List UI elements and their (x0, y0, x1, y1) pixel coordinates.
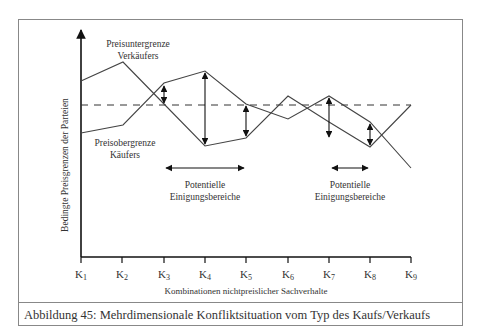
svg-text:K8: K8 (364, 268, 376, 282)
gap-arrows (164, 73, 370, 145)
svg-text:K6: K6 (282, 268, 294, 282)
x-tick-labels: K1 K2 K3 K4 K5 K6 K7 K8 K9 (75, 268, 417, 282)
figure: K1 K2 K3 K4 K5 K6 K7 K8 K9 Kombinationen… (0, 0, 480, 334)
svg-text:Einigungsbereiche: Einigungsbereiche (170, 192, 241, 202)
svg-text:K4: K4 (199, 268, 211, 282)
svg-text:Preisobergrenze: Preisobergrenze (94, 138, 155, 148)
svg-text:Potentielle: Potentielle (330, 180, 371, 190)
x-ticks (81, 257, 411, 263)
figure-caption: Abbildung 45: Mehrdimensionale Konflikts… (24, 308, 430, 322)
agreement-zone-label-1: Potentielle Einigungsbereiche (170, 180, 241, 202)
seller-label: Preisuntergrenze Verkäufers (106, 39, 170, 61)
agreement-zone-label-2: Potentielle Einigungsbereiche (315, 180, 386, 202)
svg-text:K3: K3 (158, 268, 170, 282)
svg-text:K9: K9 (405, 268, 417, 282)
svg-text:Potentielle: Potentielle (185, 180, 226, 190)
buyer-label: Preisobergrenze Käufers (94, 138, 155, 160)
svg-text:K7: K7 (323, 268, 335, 282)
x-axis-label: Kombinationen nichtpreislicher Sachverha… (165, 286, 328, 296)
svg-text:Verkäufers: Verkäufers (117, 51, 158, 61)
svg-text:Preisuntergrenze: Preisuntergrenze (106, 39, 170, 49)
y-axis-label: Bedingte Preisgrenzen der Parteien (60, 98, 70, 232)
svg-text:K5: K5 (240, 268, 252, 282)
figure-frame (19, 20, 463, 303)
svg-text:K1: K1 (75, 268, 87, 282)
svg-text:Käufers: Käufers (110, 150, 140, 160)
svg-text:Einigungsbereiche: Einigungsbereiche (315, 192, 386, 202)
svg-text:K2: K2 (116, 268, 128, 282)
